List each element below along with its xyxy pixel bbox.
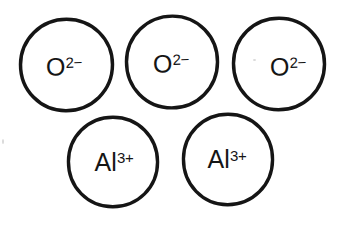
ion-symbol: O	[152, 48, 173, 77]
ion-label-oxide-3: O2−	[269, 53, 306, 79]
ion-circle-oxide-2[interactable]: O2−	[124, 14, 220, 110]
ion-circle-oxide-1[interactable]: O2−	[18, 17, 115, 113]
ion-label-oxide-1: O2−	[46, 53, 83, 79]
ion-charge: 2−	[172, 50, 189, 68]
ion-label-aluminium-2: Al3+	[207, 147, 246, 172]
ion-label-oxide-2: O2−	[152, 50, 189, 76]
ion-circle-aluminium-2[interactable]: Al3+	[181, 112, 275, 207]
scan-speck	[2, 139, 4, 144]
ion-symbol: O	[46, 51, 67, 80]
ion-diagram-canvas: O2− O2− O2− Al3+ Al3+	[0, 0, 344, 235]
ion-symbol: Al	[94, 148, 117, 176]
ion-charge: 2−	[66, 53, 83, 71]
ion-circle-aluminium-1[interactable]: Al3+	[66, 115, 160, 209]
ion-label-aluminium-1: Al3+	[94, 150, 133, 175]
ion-charge: 3+	[230, 147, 247, 164]
ion-symbol: O	[269, 51, 290, 80]
ion-charge: 2−	[289, 53, 306, 71]
ion-charge: 3+	[117, 149, 134, 166]
scan-speck	[253, 59, 256, 61]
ion-symbol: Al	[207, 145, 230, 173]
ion-circle-oxide-3[interactable]: O2−	[231, 16, 327, 112]
